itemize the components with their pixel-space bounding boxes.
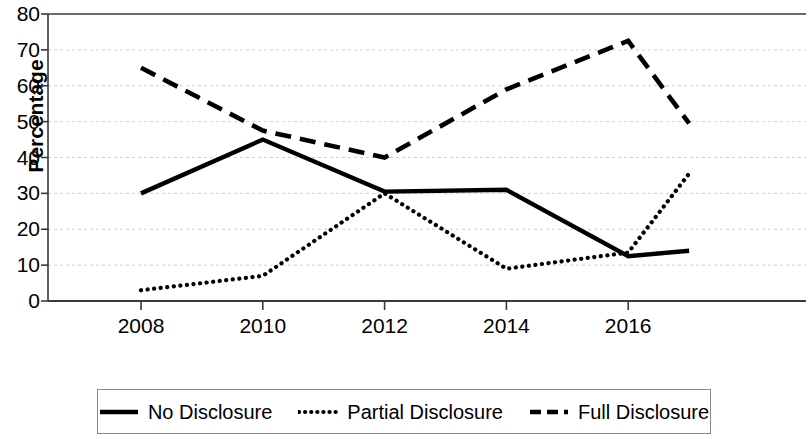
legend-swatch-dotted-icon bbox=[298, 405, 338, 419]
legend-entry[interactable]: Partial Disclosure bbox=[298, 402, 503, 422]
y-tick-label: 80 bbox=[0, 3, 40, 24]
x-tick-label: 2014 bbox=[461, 315, 551, 336]
legend-swatch-solid-icon bbox=[99, 405, 139, 419]
x-tick-label: 2012 bbox=[340, 315, 430, 336]
y-tick-label: 0 bbox=[0, 290, 40, 311]
series-line-dashed bbox=[141, 41, 689, 158]
chart-figure: Percentage 01020304050607080 20082010201… bbox=[0, 0, 811, 439]
y-tick-label: 30 bbox=[0, 182, 40, 203]
legend-entry-label: Full Disclosure bbox=[578, 402, 709, 422]
legend-entry-group: No DisclosurePartial DisclosureFull Disc… bbox=[98, 390, 710, 433]
y-tick-label: 40 bbox=[0, 147, 40, 168]
legend-swatch-dashed-icon bbox=[529, 405, 569, 419]
y-tick-label: 60 bbox=[0, 75, 40, 96]
y-tick-label: 70 bbox=[0, 39, 40, 60]
legend-entry[interactable]: Full Disclosure bbox=[529, 402, 709, 422]
chart-legend: No DisclosurePartial DisclosureFull Disc… bbox=[97, 389, 711, 434]
x-tick-label: 2008 bbox=[96, 315, 186, 336]
legend-entry[interactable]: No Disclosure bbox=[99, 402, 272, 422]
y-tick-label: 50 bbox=[0, 111, 40, 132]
legend-entry-label: Partial Disclosure bbox=[347, 402, 503, 422]
legend-entry-label: No Disclosure bbox=[148, 402, 272, 422]
y-tick-label: 20 bbox=[0, 218, 40, 239]
y-tick-label: 10 bbox=[0, 254, 40, 275]
line-chart-plot bbox=[0, 0, 811, 439]
x-tick-label: 2016 bbox=[583, 315, 673, 336]
x-tick-label: 2010 bbox=[218, 315, 308, 336]
